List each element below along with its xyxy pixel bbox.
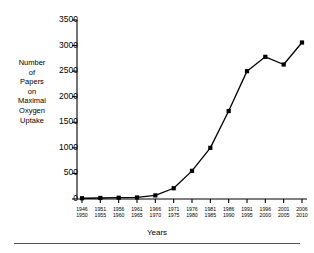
x-axis-title: Years <box>0 228 314 237</box>
x-axis-tick-label-end: 2010 <box>287 212 314 218</box>
x-axis-tick-label: 20062010 <box>287 206 314 218</box>
bottom-divider <box>14 243 300 244</box>
x-axis-tick-labels: 1946195019511955195619601961196519661970… <box>0 0 314 253</box>
chart-figure: Number of Papers on Maximal Oxygen Uptak… <box>0 0 314 253</box>
